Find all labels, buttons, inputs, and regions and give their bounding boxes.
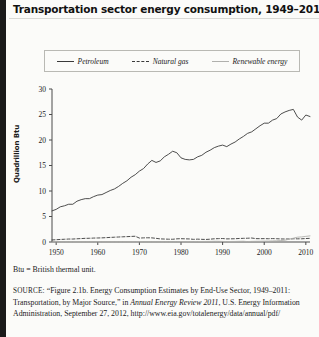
legend-item-natural-gas: Natural gas: [132, 57, 189, 66]
source-line-2b: Annual: [130, 298, 153, 307]
title-divider: [9, 18, 319, 19]
chart-legend: Petroleum Natural gas Renewable energy: [44, 50, 300, 72]
source-label: SOURCE:: [13, 287, 45, 295]
legend-item-petroleum: Petroleum: [57, 57, 109, 66]
chart-plot-area: Quadrillion Btu 051015202530195019601970…: [0, 78, 319, 258]
x-tick-label: 1960: [90, 248, 105, 257]
source-line-3a: Energy Review 2011: [155, 298, 219, 307]
y-tick-label: 0: [42, 238, 46, 247]
y-tick-label: 10: [39, 187, 47, 196]
figure-panel: Transportation sector energy consumption…: [0, 0, 319, 337]
legend-item-renewable-energy: Renewable energy: [212, 57, 288, 66]
line-chart: 0510152025301950196019701980199020002010: [0, 78, 319, 258]
y-tick-label: 20: [39, 136, 47, 145]
y-tick-label: 30: [39, 85, 47, 94]
series-line-natural-gas: [52, 236, 310, 240]
page-title: Transportation sector energy consumption…: [13, 3, 313, 15]
source-line-1: “Figure 2.1b. Energy Consumption Estimat…: [47, 286, 228, 295]
x-tick-label: 1980: [174, 248, 189, 257]
source-line-4: September 27, 2012, http://www.eia.gov/t…: [64, 309, 280, 318]
y-tick-label: 25: [39, 110, 47, 119]
btu-note: Btu = British thermal unit.: [13, 265, 96, 274]
legend-label-renewable-energy: Renewable energy: [233, 57, 288, 66]
legend-swatch-dashed-icon: [132, 61, 149, 62]
y-tick-label: 15: [39, 161, 47, 170]
x-tick-label: 2010: [298, 248, 313, 257]
x-tick-label: 1970: [132, 248, 147, 257]
legend-swatch-light-icon: [212, 61, 229, 62]
source-note: SOURCE: “Figure 2.1b. Energy Consumption…: [13, 285, 313, 320]
x-tick-label: 1950: [49, 248, 64, 257]
legend-swatch-solid-icon: [57, 61, 74, 62]
legend-label-natural-gas: Natural gas: [153, 57, 189, 66]
x-tick-label: 1990: [215, 248, 230, 257]
legend-label-petroleum: Petroleum: [78, 57, 109, 66]
series-line-petroleum: [52, 109, 310, 210]
x-tick-label: 2000: [257, 248, 272, 257]
y-tick-label: 5: [42, 212, 46, 221]
